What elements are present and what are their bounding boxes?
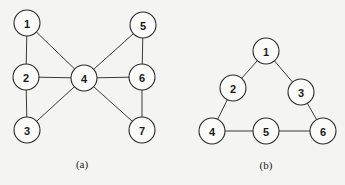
node-label: 4 bbox=[209, 126, 216, 138]
node-label: 1 bbox=[24, 18, 30, 30]
graph-b-nodes: 123456 bbox=[199, 38, 336, 144]
node-a-2: 2 bbox=[13, 64, 39, 90]
node-a-5: 5 bbox=[130, 12, 156, 38]
node-b-4: 4 bbox=[199, 118, 225, 144]
node-label: 5 bbox=[140, 20, 146, 32]
node-b-2: 2 bbox=[220, 75, 246, 101]
node-label: 6 bbox=[320, 126, 326, 138]
graph-b: 123456 (b) bbox=[199, 38, 336, 172]
graph-b-caption: (b) bbox=[260, 159, 273, 172]
node-a-1: 1 bbox=[14, 10, 40, 36]
node-a-3: 3 bbox=[14, 117, 40, 143]
graph-a-caption: (a) bbox=[76, 158, 89, 171]
node-label: 2 bbox=[230, 83, 236, 95]
node-a-7: 7 bbox=[129, 117, 155, 143]
node-label: 5 bbox=[263, 126, 269, 138]
node-b-5: 5 bbox=[253, 118, 279, 144]
node-label: 6 bbox=[139, 72, 145, 84]
node-b-1: 1 bbox=[253, 38, 279, 64]
node-a-6: 6 bbox=[129, 64, 155, 90]
graph-diagram-canvas: 1234567 (a) 123456 (b) bbox=[0, 0, 345, 185]
node-b-3: 3 bbox=[288, 79, 314, 105]
node-label: 2 bbox=[23, 72, 29, 84]
node-label: 4 bbox=[81, 73, 88, 85]
node-a-4: 4 bbox=[71, 65, 97, 91]
node-label: 3 bbox=[24, 125, 30, 137]
graph-a-nodes: 1234567 bbox=[13, 10, 156, 143]
node-label: 1 bbox=[263, 46, 269, 58]
node-b-6: 6 bbox=[310, 118, 336, 144]
node-label: 3 bbox=[298, 87, 304, 99]
graph-a: 1234567 (a) bbox=[13, 10, 156, 171]
node-label: 7 bbox=[139, 125, 145, 137]
